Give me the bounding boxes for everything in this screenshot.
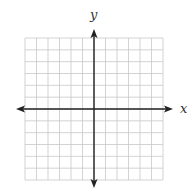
coordinate-plane: y x	[0, 0, 194, 195]
y-axis-label: y	[89, 7, 98, 22]
x-axis-label: x	[180, 101, 188, 116]
